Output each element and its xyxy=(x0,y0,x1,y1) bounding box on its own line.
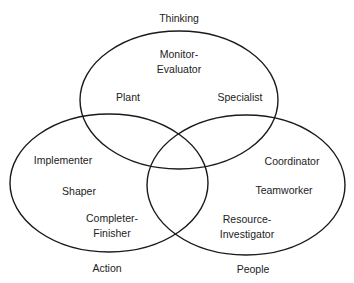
role-implementer: Implementer xyxy=(34,154,93,166)
role-resource-investigator-line1: Resource- xyxy=(223,213,272,225)
role-monitor-evaluator-line2: Evaluator xyxy=(157,63,202,75)
set-label-action: Action xyxy=(92,262,121,274)
role-shaper: Shaper xyxy=(62,185,96,197)
venn-diagram: Thinking Action People Monitor- Evaluato… xyxy=(0,0,354,283)
role-coordinator: Coordinator xyxy=(265,155,320,167)
role-specialist: Specialist xyxy=(218,91,263,103)
role-monitor-evaluator-line1: Monitor- xyxy=(160,48,199,60)
set-label-thinking: Thinking xyxy=(159,12,199,24)
role-completer-finisher-line2: Finisher xyxy=(93,227,131,239)
role-teamworker: Teamworker xyxy=(255,184,313,196)
role-resource-investigator-line2: Investigator xyxy=(220,228,275,240)
set-label-people: People xyxy=(237,263,270,275)
role-plant: Plant xyxy=(116,91,140,103)
role-completer-finisher-line1: Completer- xyxy=(86,212,138,224)
